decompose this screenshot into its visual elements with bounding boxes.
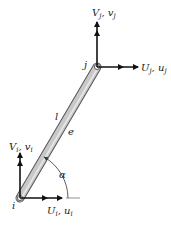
force-arrow-Uj [97, 64, 138, 70]
label-length: l [55, 111, 58, 122]
force-arrow-Vj [94, 22, 100, 67]
node-label-j: j [82, 59, 87, 70]
label-angle: α [59, 169, 66, 180]
node-label-i: i [12, 200, 15, 211]
label-Ui: Ui, ui [47, 205, 73, 218]
label-Uj: Uj, uj [141, 62, 167, 75]
truss-element-diagram: Vj, vj Uj, uj Vi, vi Ui, ui j i l e α [0, 0, 171, 229]
label-Vi: Vi, vi [9, 141, 33, 154]
label-element: e [68, 126, 74, 137]
label-Vj: Vj, vj [92, 7, 116, 20]
